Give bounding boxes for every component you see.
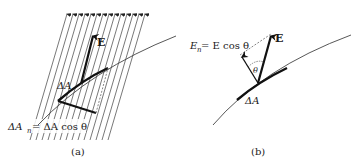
caption-a: (a)	[71, 146, 85, 157]
svg-text:= ΔA cos θ: = ΔA cos θ	[32, 121, 87, 132]
panel-b: θ E E n = E cos θ ΔA (b)	[189, 32, 351, 157]
field-label-b: E	[275, 32, 283, 45]
area-label-b: ΔA	[244, 95, 259, 106]
panel-a: E ΔA ΔA n = ΔA cos θ (a)	[6, 14, 176, 157]
angle-label: θ	[253, 66, 258, 75]
svg-text:= E cos θ: = E cos θ	[201, 40, 249, 51]
normal-equation: E n = E cos θ	[189, 40, 249, 54]
flux-diagram: E ΔA ΔA n = ΔA cos θ (a) θ E E n = E cos…	[0, 0, 358, 168]
area-label-a: ΔA	[56, 80, 71, 91]
field-label-a: E	[97, 36, 105, 49]
svg-text:ΔA: ΔA	[7, 121, 22, 132]
caption-b: (b)	[251, 146, 265, 157]
